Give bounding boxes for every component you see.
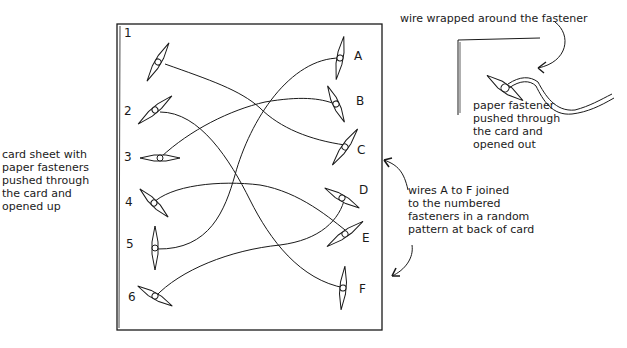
card-sheet-note: card sheet with paper fasteners pushed t… — [2, 148, 89, 213]
inset-pointer-arrow — [538, 22, 565, 68]
fastener-E-icon — [325, 219, 364, 249]
pin-label-1: 1 — [124, 26, 132, 40]
wire-6-to-D — [155, 197, 345, 297]
pin-label-A: A — [354, 49, 362, 63]
fastener-C-icon — [330, 127, 360, 166]
pin-label-5: 5 — [126, 237, 134, 251]
wire-2-to-F — [160, 112, 345, 288]
pin-label-4: 4 — [125, 195, 133, 209]
pin-label-3: 3 — [124, 150, 132, 164]
fastener-6-icon — [136, 283, 174, 308]
pin-label-F: F — [359, 282, 366, 296]
wires-joined-note: wires A to F joined to the numbered fast… — [408, 184, 534, 236]
fastener-1-icon — [144, 41, 171, 82]
pin-label-C: C — [357, 143, 365, 157]
card-edge-line — [119, 26, 120, 328]
wire-3-to-B — [161, 98, 335, 157]
fastener-card-diagram — [0, 0, 627, 348]
paper-fastener-note: paper fastener pushed through the card a… — [473, 99, 560, 151]
wire-wrapped-note: wire wrapped around the fastener — [400, 12, 587, 25]
right-fasteners — [323, 36, 365, 310]
pin-label-D: D — [359, 183, 368, 197]
fastener-F-icon — [338, 266, 348, 310]
pin-label-B: B — [356, 94, 364, 108]
pin-label-2: 2 — [124, 104, 132, 118]
fastener-B-icon — [325, 85, 347, 124]
wire-5-to-A — [157, 58, 340, 249]
fastener-4-icon — [138, 187, 171, 220]
wire-4-to-E — [152, 183, 350, 234]
pin-label-6: 6 — [128, 290, 136, 304]
fastener-5-icon — [152, 226, 158, 270]
left-fasteners — [136, 41, 180, 308]
fastener-3-icon — [140, 155, 180, 161]
pin-label-E: E — [362, 231, 370, 245]
wires — [152, 58, 350, 297]
fastener-2-icon — [136, 94, 174, 127]
